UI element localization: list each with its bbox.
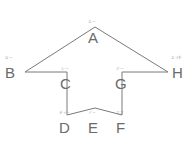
vertex-mark-d: ディー (59, 111, 70, 115)
vertex-mark-a: エー (88, 20, 95, 24)
vertex-mark-f: エフ (116, 111, 123, 115)
vertex-label-f: F (116, 120, 125, 135)
vertex-label-b: B (5, 65, 15, 80)
vertex-mark-c: シー (61, 67, 68, 71)
vertex-label-c: C (60, 76, 71, 91)
vertex-mark-h: エイチ (171, 56, 182, 60)
vertex-mark-g: ジー (116, 67, 123, 71)
vertex-label-g: G (115, 76, 127, 91)
vertex-label-d: D (59, 120, 70, 135)
vertex-mark-b: ビー (5, 56, 12, 60)
vertex-label-h: H (172, 65, 183, 80)
geometry-figure: エー A ビー B シー C ディー D イー E エフ F ジー G エイチ … (0, 0, 190, 141)
vertex-label-a: A (88, 30, 98, 45)
vertex-label-e: E (88, 120, 98, 135)
vertex-mark-e: イー (88, 111, 95, 115)
